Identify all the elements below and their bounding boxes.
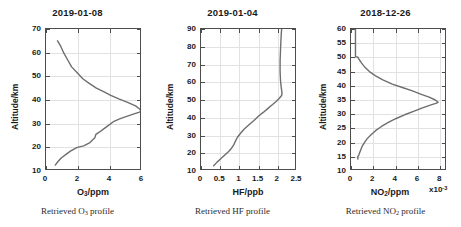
caption-ozone-suffix: profile: [88, 206, 114, 216]
x-tick-label: 1.5: [252, 174, 263, 183]
x-axis-label-hf-suffix: /ppb: [245, 187, 264, 197]
x-tick-label: 6: [139, 174, 143, 183]
x-axis-label-no2: NO2/ppm: [371, 187, 410, 197]
y-tick-label: 30: [174, 130, 196, 139]
y-tick-label: 70: [174, 59, 196, 68]
y-tick-label: 15: [324, 151, 346, 160]
caption-hf-prefix: Retrieved HF: [195, 206, 244, 216]
y-tick-label: 40: [324, 80, 346, 89]
x-tick-label: 2: [275, 174, 279, 183]
panel-hf: 2019-01-04 Altitude/km HF/ppb Retrieved …: [155, 0, 310, 227]
caption-ozone-prefix: Retrieved O: [41, 206, 85, 216]
figure-container: 2019-01-08 Altitude/km O3/ppm Retrieved …: [0, 0, 461, 227]
panel-title-ozone: 2019-01-08: [0, 7, 155, 18]
y-tick-label: 60: [324, 24, 346, 33]
x-tick-label: 2: [75, 174, 79, 183]
y-tick-label: 50: [174, 95, 196, 104]
y-tick-label: 55: [324, 38, 346, 47]
y-tick-label: 90: [174, 24, 196, 33]
x-tick-label: 2: [370, 174, 374, 183]
caption-hf-suffix: profile: [244, 206, 270, 216]
y-tick-label: 10: [19, 166, 41, 175]
x-tick-label: 4: [392, 174, 396, 183]
x-tick-label: 8: [437, 174, 441, 183]
caption-no2-suffix: profile: [399, 206, 425, 216]
x-axis-label-ozone: O3/ppm: [77, 187, 109, 197]
caption-no2-prefix: Retrieved NO: [346, 206, 396, 216]
x-axis-exponent-no2: x10-3: [429, 185, 447, 194]
panel-title-hf: 2019-01-04: [155, 7, 310, 18]
y-tick-label: 25: [324, 123, 346, 132]
y-tick-label: 50: [324, 52, 346, 61]
y-tick-label: 60: [174, 77, 196, 86]
x-axis-label-no2-prefix: NO: [371, 187, 385, 197]
y-tick-label: 10: [174, 166, 196, 175]
caption-hf: Retrieved HF profile: [155, 206, 310, 216]
x-axis-label-ozone-suffix: /ppm: [88, 187, 110, 197]
y-tick-label: 40: [19, 95, 41, 104]
x-tick-label: 1: [236, 174, 240, 183]
x-tick-label: 0: [43, 174, 47, 183]
profile-curve-no2: [351, 29, 446, 170]
panel-no2: 2018-12-26 Altitude/km NO2/ppm x10-3 Ret…: [310, 0, 461, 227]
caption-ozone: Retrieved O3 profile: [0, 206, 155, 216]
y-tick-label: 70: [19, 24, 41, 33]
x-tick-label: 6: [415, 174, 419, 183]
y-tick-label: 45: [324, 66, 346, 75]
series-line: [355, 29, 438, 159]
y-tick-label: 10: [324, 166, 346, 175]
x-tick-label: 4: [107, 174, 111, 183]
y-tick-label: 20: [19, 142, 41, 151]
y-tick-label: 80: [174, 41, 196, 50]
panel-ozone: 2019-01-08 Altitude/km O3/ppm Retrieved …: [0, 0, 155, 227]
plot-area-hf: [200, 28, 296, 170]
y-tick-label: 20: [324, 137, 346, 146]
y-axis-label-hf: Altitude/km: [165, 84, 175, 130]
y-tick-label: 40: [174, 112, 196, 121]
x-axis-label-ozone-prefix: O: [77, 187, 84, 197]
plot-area-no2: [350, 28, 446, 170]
y-tick-label: 30: [19, 118, 41, 127]
panel-title-no2: 2018-12-26: [310, 7, 461, 18]
series-line: [55, 41, 141, 165]
x-tick-label: 0.5: [214, 174, 225, 183]
plot-area-ozone: [45, 28, 141, 170]
y-tick-label: 50: [19, 71, 41, 80]
x-tick-label: 2.5: [290, 174, 301, 183]
y-tick-label: 60: [19, 47, 41, 56]
x-axis-label-no2-suffix: /ppm: [388, 187, 410, 197]
x-axis-exponent-base: x10: [429, 185, 442, 194]
profile-curve-hf: [201, 29, 296, 170]
y-tick-label: 35: [324, 95, 346, 104]
series-line: [214, 29, 282, 166]
profile-curve-ozone: [46, 29, 141, 170]
y-tick-label: 30: [324, 109, 346, 118]
x-tick-label: 0: [198, 174, 202, 183]
x-axis-label-hf-prefix: HF: [233, 187, 245, 197]
x-axis-label-hf: HF/ppb: [233, 187, 264, 197]
x-tick-label: 0: [348, 174, 352, 183]
y-tick-label: 20: [174, 148, 196, 157]
caption-no2: Retrieved NO2 profile: [310, 206, 461, 216]
x-axis-exponent-sup: -3: [442, 185, 447, 191]
